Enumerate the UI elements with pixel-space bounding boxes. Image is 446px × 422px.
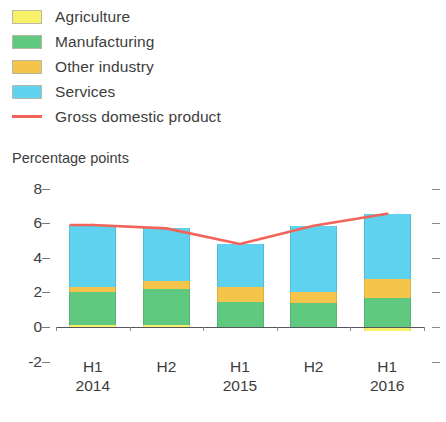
x-axis-label: H12016 [352, 357, 422, 395]
gdp-overlay-line [56, 172, 424, 372]
legend-swatch-other-industry [12, 60, 42, 74]
legend-item-services: Services [12, 79, 432, 104]
x-axis-tick [56, 327, 57, 331]
y-axis-tick-mark [42, 327, 50, 328]
x-axis-label-half: H1 [377, 358, 397, 375]
x-axis-tick [130, 327, 131, 331]
legend-item-agriculture: Agriculture [12, 4, 432, 29]
y-axis-tick-label: 0 [16, 318, 42, 336]
y-axis-tick-label: 2 [16, 283, 42, 301]
y-axis-tick-mark [42, 223, 50, 224]
legend-label-manufacturing: Manufacturing [55, 33, 155, 51]
legend-swatch-services [12, 85, 42, 99]
legend-line-gross-domestic-product [12, 110, 42, 124]
x-axis-tick [277, 327, 278, 331]
x-axis-label-half: H2 [156, 358, 176, 375]
y-axis-tick-mark-right [432, 223, 440, 224]
legend-item-gross-domestic-product: Gross domestic product [12, 104, 432, 129]
x-axis-label: H2 [131, 357, 201, 376]
y-axis-tick-label: 8 [16, 180, 42, 198]
x-axis-label-half: H1 [230, 358, 250, 375]
legend-label-gross-domestic-product: Gross domestic product [55, 108, 221, 126]
y-axis-tick-mark [42, 258, 50, 259]
y-axis-tick-label: 4 [16, 249, 42, 267]
legend-item-manufacturing: Manufacturing [12, 29, 432, 54]
x-axis-label: H12014 [58, 357, 128, 395]
y-axis-tick-mark-right [432, 292, 440, 293]
y-axis-tick-label: -2 [16, 353, 42, 371]
x-axis-tick [350, 327, 351, 331]
y-axis-tick-label: 6 [16, 214, 42, 232]
x-axis-label: H2 [279, 357, 349, 376]
legend-item-other-industry: Other industry [12, 54, 432, 79]
x-axis-label-half: H2 [304, 358, 324, 375]
y-axis-tick-mark-right [432, 189, 440, 190]
y-axis-tick-mark [42, 292, 50, 293]
legend-label-services: Services [55, 83, 115, 101]
x-axis-tick [203, 327, 204, 331]
gdp-line-path [93, 214, 387, 244]
x-axis-tick [424, 327, 425, 331]
x-axis-label-year: 2014 [58, 376, 128, 395]
legend-label-other-industry: Other industry [55, 58, 154, 76]
x-axis-label-year: 2016 [352, 376, 422, 395]
axis-units-caption: Percentage points [12, 150, 129, 166]
x-axis-label-year: 2015 [205, 376, 275, 395]
y-axis-tick-mark-right [432, 362, 440, 363]
x-axis-label: H12015 [205, 357, 275, 395]
legend-line-stroke [12, 115, 42, 118]
legend-swatch-agriculture [12, 10, 42, 24]
chart-legend: Agriculture Manufacturing Other industry… [12, 4, 432, 129]
legend-label-agriculture: Agriculture [55, 8, 130, 26]
y-axis-tick-mark-right [432, 258, 440, 259]
chart-area: 86420-2 H12014H2H12015H2H12016 [0, 172, 446, 422]
y-axis-tick-mark [42, 189, 50, 190]
plot-area: 86420-2 H12014H2H12015H2H12016 [56, 172, 424, 372]
y-axis-tick-mark-right [432, 327, 440, 328]
y-axis-tick-mark [42, 362, 50, 363]
legend-swatch-manufacturing [12, 35, 42, 49]
x-axis-label-half: H1 [83, 358, 103, 375]
